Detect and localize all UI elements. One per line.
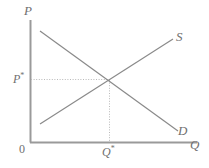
x-axis-label: Q (190, 138, 199, 151)
equilibrium-quantity-label: Q* (102, 145, 115, 158)
supply-curve (40, 39, 173, 124)
supply-curve-label: S (176, 30, 183, 43)
demand-curve (40, 31, 178, 131)
origin-label: 0 (19, 143, 25, 155)
equilibrium-price-star: * (20, 71, 24, 80)
equilibrium-quantity-base: Q (102, 145, 111, 159)
equilibrium-price-label: P* (13, 72, 24, 85)
y-axis-label: P (24, 4, 32, 17)
chart-canvas (0, 0, 209, 168)
supply-demand-chart: P Q S D P* Q* 0 (0, 0, 209, 168)
demand-curve-label: D (178, 124, 187, 137)
equilibrium-quantity-star: * (111, 144, 115, 153)
